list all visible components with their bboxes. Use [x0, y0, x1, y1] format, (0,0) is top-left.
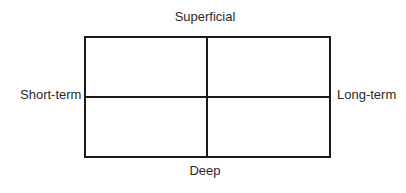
- quadrant-grid: [84, 36, 331, 158]
- axis-label-right: Long-term: [337, 87, 396, 103]
- axis-label-bottom: Deep: [0, 163, 406, 179]
- axis-label-top: Superficial: [0, 9, 406, 25]
- horizontal-axis-line: [86, 96, 329, 98]
- axis-label-left: Short-term: [20, 87, 81, 103]
